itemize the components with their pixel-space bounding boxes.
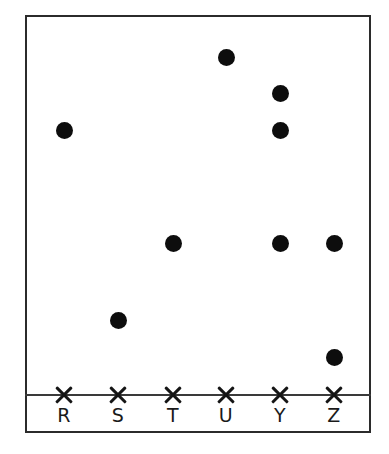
scatter-chart-figure: RSTUYZ xyxy=(0,0,389,454)
axis-tick-label-s: S xyxy=(98,404,138,426)
axis-tick-label-r: R xyxy=(44,404,84,426)
data-point-r-0 xyxy=(56,122,73,139)
axis-tick-z-icon xyxy=(324,385,344,405)
axis-tick-r-icon xyxy=(54,385,74,405)
axis-tick-y-icon xyxy=(270,385,290,405)
data-point-t-0 xyxy=(165,235,182,252)
axis-tick-s-icon xyxy=(108,385,128,405)
data-point-s-0 xyxy=(110,312,127,329)
category-axis-line xyxy=(25,394,371,396)
data-point-y-2 xyxy=(272,235,289,252)
data-point-z-0 xyxy=(326,235,343,252)
axis-tick-t-icon xyxy=(163,385,183,405)
axis-tick-label-y: Y xyxy=(260,404,300,426)
axis-tick-label-u: U xyxy=(206,404,246,426)
data-point-z-1 xyxy=(326,349,343,366)
data-point-y-1 xyxy=(272,122,289,139)
data-point-y-0 xyxy=(272,85,289,102)
plot-frame-border xyxy=(25,15,371,433)
axis-tick-label-t: T xyxy=(153,404,193,426)
axis-tick-label-z: Z xyxy=(314,404,354,426)
axis-tick-u-icon xyxy=(216,385,236,405)
data-point-u-0 xyxy=(218,49,235,66)
